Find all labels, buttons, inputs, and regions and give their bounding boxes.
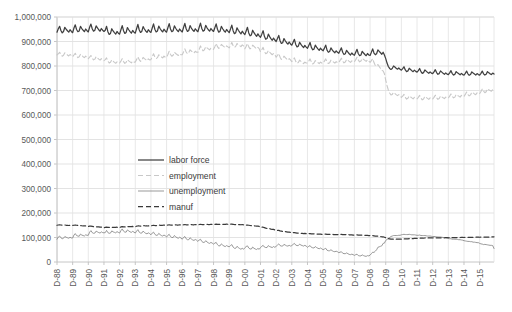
x-axis-tick-label: D-02	[272, 269, 281, 287]
y-axis-tick-label: 300,000	[21, 185, 51, 194]
y-axis-tick-label: 1,000,000	[15, 13, 52, 22]
series-line-manuf	[57, 224, 494, 239]
x-axis-tick-label: D-00	[241, 269, 250, 287]
legend-label-manuf[interactable]: manuf	[169, 202, 193, 212]
x-axis-tick-label: D-06	[335, 269, 344, 287]
x-axis-tick-label: D-13	[445, 269, 454, 287]
y-axis-tick-label: 400,000	[21, 160, 51, 169]
x-axis-tick-label: D-92	[116, 269, 125, 287]
y-axis-tick-label: 700,000	[21, 87, 51, 96]
x-axis-tick-label: D-88	[53, 269, 62, 287]
x-axis-tick-label: D-90	[85, 269, 94, 287]
chart-canvas: 1,000,000900,000800,000700,000600,000500…	[0, 0, 512, 312]
legend-label-labor-force[interactable]: labor force	[169, 155, 210, 165]
x-axis-tick-label: D-95	[163, 269, 172, 287]
legend-label-employment[interactable]: employment	[169, 171, 216, 181]
series-line-unemployment	[57, 229, 494, 256]
x-axis-tick-label: D-09	[382, 269, 391, 287]
x-axis-tick-label: D-01	[257, 269, 266, 287]
series-line-employment	[57, 42, 494, 99]
x-axis-tick-label: D-97	[194, 269, 203, 287]
x-axis-tick-label: D-03	[288, 269, 297, 287]
x-axis-tick-label: D-04	[304, 269, 313, 287]
y-axis-tick-label: 200,000	[21, 209, 51, 218]
x-axis-tick-label: D-98	[210, 269, 219, 287]
y-axis-tick-label: 600,000	[21, 111, 51, 120]
x-axis-tick-label: D-08	[366, 269, 375, 287]
x-axis-tick-label: D-15	[476, 269, 485, 287]
x-axis-tick-label: D-07	[351, 269, 360, 287]
x-axis-tick-label: D-11	[413, 269, 422, 287]
y-axis-tick-label: 100,000	[21, 234, 51, 243]
y-axis-tick-label: 900,000	[21, 38, 51, 47]
x-axis-tick-label: D-10	[398, 269, 407, 287]
y-axis-tick-label: 500,000	[21, 136, 51, 145]
employment-chart: 1,000,000900,000800,000700,000600,000500…	[0, 0, 512, 312]
x-axis-tick-label: D-96	[178, 269, 187, 287]
x-axis-tick-label: D-12	[429, 269, 438, 287]
x-axis-tick-label: D-89	[69, 269, 78, 287]
legend-label-unemployment[interactable]: unemployment	[169, 186, 226, 196]
x-axis-tick-label: D-94	[147, 269, 156, 287]
x-axis-tick-label: D-93	[131, 269, 140, 287]
x-axis-tick-label: D-14	[460, 269, 469, 287]
x-axis-tick-label: D-05	[319, 269, 328, 287]
y-axis-tick-label: 0	[46, 258, 51, 267]
x-axis-tick-label: D-91	[100, 269, 109, 287]
series-line-labor-force	[57, 23, 494, 75]
x-axis-tick-label: D-99	[225, 269, 234, 287]
y-axis-tick-label: 800,000	[21, 62, 51, 71]
